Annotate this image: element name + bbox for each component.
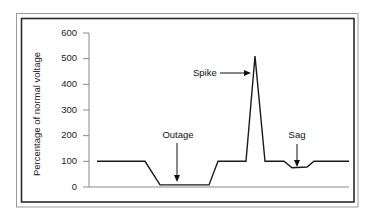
arrow-down-icon <box>174 175 180 182</box>
sag-label: Sag <box>289 129 306 140</box>
y-tick-label: 100 <box>61 155 77 166</box>
y-tick-label: 500 <box>61 52 77 63</box>
y-tick-label: 200 <box>61 129 77 140</box>
y-tick-label: 300 <box>61 104 77 115</box>
annotation-outage: Outage <box>162 129 193 182</box>
arrow-down-icon <box>294 160 300 167</box>
spike-label: Spike <box>193 67 217 78</box>
y-tick-label: 0 <box>72 181 77 192</box>
y-axis-label: Percentage of normal voltage <box>31 52 42 176</box>
y-axis: 0100200300400500600 <box>61 27 89 192</box>
annotation-spike: Spike <box>193 67 251 78</box>
arrow-right-icon <box>244 70 251 76</box>
voltage-chart: Percentage of normal voltage 01002003004… <box>0 0 375 218</box>
y-tick-label: 600 <box>61 27 77 38</box>
outage-label: Outage <box>162 129 193 140</box>
voltage-line <box>97 56 349 185</box>
annotation-sag: Sag <box>289 129 306 167</box>
y-tick-label: 400 <box>61 78 77 89</box>
